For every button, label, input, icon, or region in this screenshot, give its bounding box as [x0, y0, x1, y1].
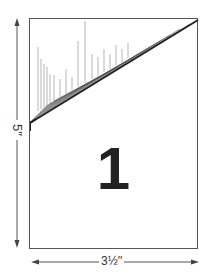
- arrow-left-icon: [31, 260, 39, 265]
- index-card: 1: [29, 18, 198, 249]
- arrow-down-icon: [15, 240, 20, 248]
- width-dimension-label: 3½′′: [99, 254, 124, 268]
- arrow-up-icon: [15, 18, 20, 26]
- arrow-right-icon: [191, 260, 199, 265]
- card-number: 1: [30, 139, 197, 199]
- height-dimension-label: 5′′: [10, 120, 24, 140]
